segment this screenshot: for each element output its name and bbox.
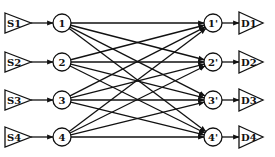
output-node-1p: 1' — [204, 14, 222, 32]
node-label: 3' — [208, 95, 218, 106]
source-s1: S1 — [5, 13, 31, 33]
destination-label: D4 — [241, 132, 257, 143]
input-node-2: 2 — [53, 53, 71, 71]
source-label: S1 — [7, 18, 21, 29]
output-node-2p: 2' — [204, 53, 222, 71]
destination-d3: D3 — [239, 89, 263, 111]
destination-label: D1 — [241, 18, 257, 29]
source-label: S2 — [7, 57, 21, 68]
source-s2: S2 — [5, 52, 31, 72]
node-label: 4' — [208, 132, 218, 143]
node-label: 2' — [208, 57, 218, 68]
destination-d1: D1 — [239, 12, 263, 34]
node-label: 1' — [208, 18, 218, 29]
output-node-3p: 3' — [204, 91, 222, 109]
node-label: 2 — [59, 57, 66, 68]
destination-d4: D4 — [239, 126, 263, 148]
destination-label: D3 — [241, 95, 257, 106]
network-diagram: S1S2S3S412341'2'3'4'D1D2D3D4 — [0, 0, 275, 157]
source-label: S3 — [7, 95, 21, 106]
node-label: 4 — [59, 132, 66, 143]
node-label: 1 — [59, 18, 66, 29]
input-node-1: 1 — [53, 14, 71, 32]
source-s3: S3 — [5, 90, 31, 110]
source-label: S4 — [7, 132, 21, 143]
input-node-4: 4 — [53, 128, 71, 146]
edges-layer — [31, 23, 239, 137]
destination-label: D2 — [241, 57, 257, 68]
source-s4: S4 — [5, 127, 31, 147]
input-node-3: 3 — [53, 91, 71, 109]
output-node-4p: 4' — [204, 128, 222, 146]
node-label: 3 — [59, 95, 66, 106]
destination-d2: D2 — [239, 51, 263, 73]
